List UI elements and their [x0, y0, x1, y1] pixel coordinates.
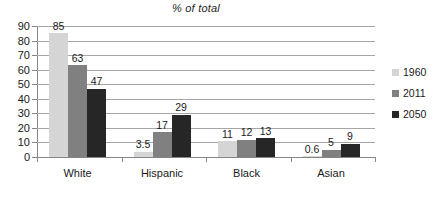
y-tick-label-0: 0: [0, 152, 30, 163]
x-category-label-asian: Asian: [317, 168, 345, 179]
plot-area: 8563473.517291112130.659: [37, 26, 375, 157]
y-tick-label-40: 40: [0, 93, 30, 104]
legend: 196020112050: [392, 62, 438, 125]
x-tick-mark-0: [37, 157, 38, 162]
y-tick-mark-50: [32, 84, 37, 85]
y-tick-mark-10: [32, 142, 37, 143]
legend-label-2011: 2011: [403, 88, 426, 99]
bar-white-2050[interactable]: [87, 89, 106, 157]
y-tick-label-60: 60: [0, 64, 30, 75]
y-tick-label-70: 70: [0, 50, 30, 61]
legend-swatch-icon-2050: [392, 111, 399, 118]
x-tick-mark-1: [122, 157, 123, 162]
y-tick-mark-30: [32, 113, 37, 114]
bar-group-black: 111213: [206, 26, 291, 157]
legend-label-1960: 1960: [403, 67, 426, 78]
x-category-label-white: White: [63, 168, 91, 179]
bar-group-asian: 0.659: [291, 26, 376, 157]
bar-black-2011[interactable]: [237, 140, 256, 157]
bar-value-label-hispanic-1960: 3.5: [136, 139, 151, 150]
y-tick-mark-20: [32, 128, 37, 129]
bar-value-label-hispanic-2050: 29: [175, 102, 187, 113]
y-tick-mark-0: [32, 157, 37, 158]
legend-item-2011[interactable]: 2011: [392, 83, 438, 104]
y-tick-label-10: 10: [0, 137, 30, 148]
legend-swatch-icon-2011: [392, 90, 399, 97]
x-category-label-black: Black: [233, 168, 260, 179]
x-category-label-hispanic: Hispanic: [141, 168, 183, 179]
x-tick-mark-3: [291, 157, 292, 162]
legend-item-1960[interactable]: 1960: [392, 62, 438, 83]
y-tick-label-30: 30: [0, 108, 30, 119]
bar-value-label-black-2011: 12: [241, 127, 253, 138]
bar-hispanic-2011[interactable]: [153, 132, 172, 157]
bar-value-label-asian-2050: 9: [347, 131, 353, 142]
y-tick-label-50: 50: [0, 79, 30, 90]
y-tick-label-80: 80: [0, 35, 30, 46]
bar-value-label-asian-1960: 0.6: [305, 144, 320, 155]
bar-value-label-white-1960: 85: [53, 21, 65, 32]
bar-group-white: 856347: [37, 26, 122, 157]
bar-white-1960[interactable]: [49, 33, 68, 157]
bar-asian-2011[interactable]: [322, 150, 341, 157]
chart-title: % of total: [0, 2, 392, 14]
bar-value-label-black-1960: 11: [222, 129, 233, 140]
y-tick-mark-70: [32, 55, 37, 56]
bar-value-label-white-2050: 47: [91, 76, 103, 87]
bar-value-label-hispanic-2011: 17: [156, 120, 168, 131]
legend-label-2050: 2050: [403, 109, 426, 120]
bar-value-label-black-2050: 13: [260, 126, 272, 137]
y-tick-mark-60: [32, 70, 37, 71]
bar-hispanic-2050[interactable]: [172, 115, 191, 157]
bar-group-hispanic: 3.51729: [122, 26, 207, 157]
bottom-cutoff-text: [0, 197, 438, 201]
y-axis-tick-labels: 0102030405060708090: [0, 26, 30, 157]
legend-item-2050[interactable]: 2050: [392, 104, 438, 125]
y-tick-mark-40: [32, 99, 37, 100]
y-tick-mark-80: [32, 41, 37, 42]
bar-value-label-white-2011: 63: [72, 53, 84, 64]
x-tick-mark-end: [375, 157, 376, 162]
y-tick-label-90: 90: [0, 21, 30, 32]
legend-swatch-icon-1960: [392, 69, 399, 76]
y-tick-mark-90: [32, 26, 37, 27]
x-tick-mark-2: [206, 157, 207, 162]
bar-black-1960[interactable]: [218, 141, 237, 157]
bar-asian-2050[interactable]: [341, 144, 360, 157]
y-tick-label-20: 20: [0, 122, 30, 133]
bar-value-label-asian-2011: 5: [328, 137, 334, 148]
bar-white-2011[interactable]: [68, 65, 87, 157]
bar-chart: % of total 0102030405060708090 8563473.5…: [0, 0, 438, 201]
bar-black-2050[interactable]: [256, 138, 275, 157]
